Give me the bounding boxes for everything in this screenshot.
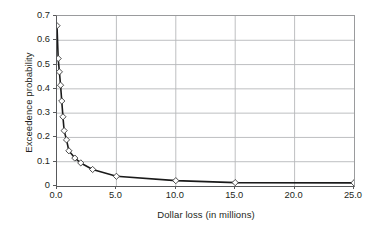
x-tick-mark [56,186,57,189]
y-tick-label: 0.6 [24,34,50,44]
y-tick-mark [53,39,56,40]
exceedence-probability-chart: Exceedence probability 00.10.20.30.40.50… [0,0,375,229]
y-tick-mark [53,161,56,162]
x-tick-mark [353,186,354,189]
data-point-marker [90,166,96,172]
data-point-marker [60,114,66,120]
y-tick-mark [53,136,56,137]
data-point-marker [57,23,60,29]
data-point-marker [57,55,61,61]
data-point-marker [351,180,354,186]
y-tick-mark [53,112,56,113]
data-line [57,26,354,183]
x-tick-mark [294,186,295,189]
y-tick-label: 0.2 [24,131,50,141]
y-tick-label: 0.4 [24,83,50,93]
x-tick-mark [175,186,176,189]
x-tick-mark [234,186,235,189]
x-axis-title: Dollar loss (in millions) [55,209,357,220]
y-tick-label: 0.1 [24,156,50,166]
y-tick-mark [53,15,56,16]
y-tick-label: 0.3 [24,107,50,117]
data-point-marker [59,98,65,104]
plot-area [56,15,355,187]
data-point-marker [57,82,63,88]
x-tick-mark [115,186,116,189]
y-tick-mark [53,64,56,65]
y-tick-mark [53,88,56,89]
x-tick-label: 0.0 [36,190,76,200]
data-point-marker [232,180,238,186]
y-tick-label: 0 [24,180,50,190]
chart-canvas [57,16,354,186]
x-tick-label: 5.0 [95,190,135,200]
y-tick-label: 0.5 [24,59,50,69]
x-tick-label: 20.0 [274,190,314,200]
x-tick-label: 15.0 [214,190,254,200]
data-point-marker [113,173,119,179]
grid-lines [57,16,354,186]
data-point-marker [57,69,62,75]
x-tick-label: 25.0 [333,190,373,200]
data-point-marker [61,128,67,134]
x-tick-label: 10.0 [155,190,195,200]
data-point-marker [173,178,179,184]
y-tick-label: 0.7 [24,10,50,20]
